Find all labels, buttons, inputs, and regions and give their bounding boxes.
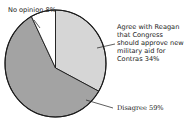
label-agree-line-4: military aid for (117, 47, 184, 55)
label-agree: Agree with Reagan that Congress should a… (117, 23, 184, 63)
label-disagree: Disagree 59% (117, 104, 164, 112)
leader-disagree (86, 100, 113, 108)
label-agree-line-3: should approve new (117, 39, 184, 47)
label-agree-line-2: that Congress (117, 31, 184, 39)
label-no-opinion: No opinion 8% (8, 6, 56, 14)
label-agree-line-5: Contras 34% (117, 55, 184, 63)
label-agree-line-1: Agree with Reagan (117, 23, 184, 31)
